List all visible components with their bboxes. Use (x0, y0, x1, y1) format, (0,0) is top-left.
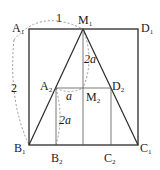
label-A1: A1 (12, 21, 25, 36)
label-B1: B1 (14, 141, 26, 156)
label-A2: A2 (40, 79, 53, 94)
measure-left-2: 2 (11, 81, 17, 95)
segment-M1C1 (83, 29, 138, 145)
label-D2: D2 (112, 79, 125, 94)
geometry-diagram: A1 M1 D1 A2 D2 M2 B1 B2 C2 C1 1 2 2a a 2… (0, 0, 160, 170)
label-M2: M2 (86, 90, 101, 105)
label-C1: C1 (140, 141, 152, 156)
measure-top-1: 1 (56, 11, 62, 25)
measure-upper-2a: 2a (84, 52, 96, 66)
measure-mid-a: a (66, 89, 72, 103)
label-D1: D1 (141, 21, 154, 36)
label-C2: C2 (104, 151, 116, 166)
measure-lower-2a: 2a (59, 113, 71, 127)
label-B2: B2 (51, 151, 63, 166)
arc-top-dashed (14, 21, 83, 40)
label-M1: M1 (78, 13, 93, 28)
